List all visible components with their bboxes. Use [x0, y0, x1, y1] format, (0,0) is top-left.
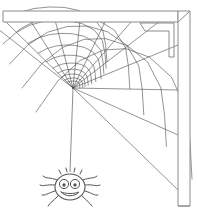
spider-leg: [40, 185, 55, 186]
spider-leg: [82, 196, 92, 206]
spider-leg: [42, 191, 55, 195]
web-radial: [73, 88, 178, 190]
web-radial: [73, 88, 178, 90]
spider-pupil-left: [62, 183, 65, 186]
illustration-canvas: [0, 0, 197, 218]
web-radial: [4, 20, 73, 88]
spider-web-illustration: [0, 0, 197, 218]
web-radial: [73, 21, 132, 88]
frame-right-beam: [178, 11, 190, 206]
spider-pupil-right: [73, 183, 76, 186]
web-radial: [73, 45, 178, 88]
spider-leg: [48, 196, 58, 206]
web-rings: [3, 7, 192, 179]
spider-leg: [43, 176, 57, 180]
spider-leg-tuft: [80, 170, 82, 174]
web-ring: [10, 26, 144, 115]
frame-corner-bracket: [140, 23, 174, 57]
web-ring: [36, 49, 192, 179]
web-radials: [0, 0, 178, 190]
spider-dragline: [70, 88, 73, 172]
spider-leg-tuft: [59, 170, 61, 174]
web-group: [0, 0, 192, 190]
spider-leg: [85, 185, 100, 186]
spider-group: [40, 168, 100, 206]
web-radial: [73, 88, 178, 135]
spider-leg-tuft: [74, 168, 75, 172]
spider-leg-tuft: [66, 168, 67, 172]
spider-leg: [85, 191, 98, 195]
web-ring: [28, 33, 104, 74]
frame-top-beam: [3, 11, 178, 22]
web-radial: [55, 20, 73, 88]
web-radial: [30, 20, 73, 88]
spider-leg: [83, 176, 97, 180]
web-ring: [22, 39, 166, 147]
